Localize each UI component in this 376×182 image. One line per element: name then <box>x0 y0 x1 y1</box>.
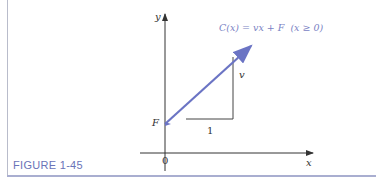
intercept-label: F <box>151 117 160 128</box>
equation-label: C(x) = vx + F (x ≥ 0) <box>219 22 324 33</box>
figure-caption: FIGURE 1-45 <box>13 159 83 171</box>
cost-function-diagram: y x 0 F v 1 C(x) = vx + F (x ≥ 0) <box>0 0 376 182</box>
cost-line <box>165 46 251 124</box>
y-axis-label: y <box>154 11 161 22</box>
rise-label: v <box>239 69 245 80</box>
origin-label: 0 <box>162 155 168 166</box>
run-label: 1 <box>207 125 213 136</box>
x-axis-label: x <box>306 157 312 168</box>
slope-triangle <box>186 57 233 119</box>
